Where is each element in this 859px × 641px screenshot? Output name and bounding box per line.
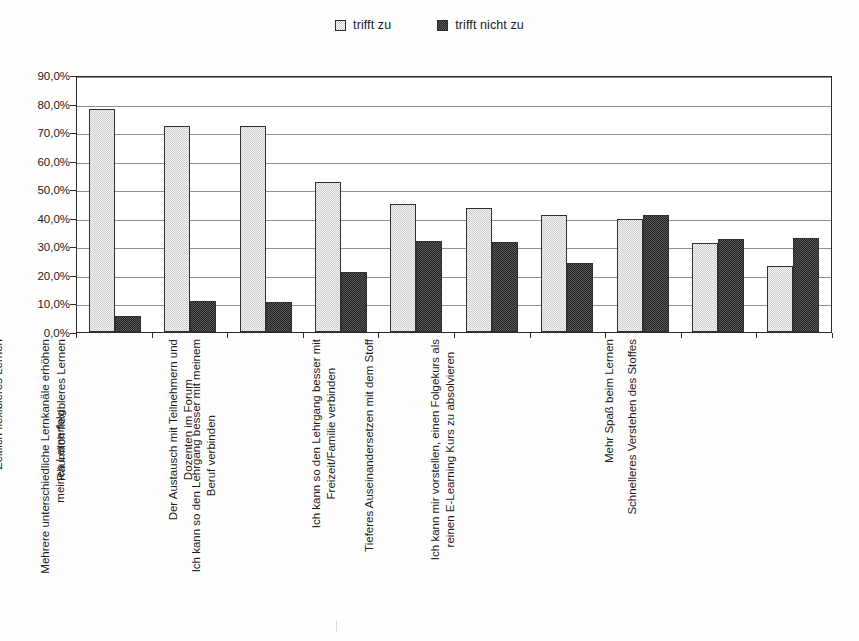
x-axis-category-label: Ich kann mir vorstellen, einen Folgekurs… xyxy=(429,339,459,560)
bar-groups xyxy=(77,77,831,332)
bar-trifft-zu xyxy=(89,109,115,332)
bar-group xyxy=(454,77,529,332)
bar-group xyxy=(228,77,303,332)
legend-swatch-dark-icon xyxy=(437,20,448,31)
x-axis-category-label: Tieferes Auseinandersetzen mit dem Stoff xyxy=(361,339,376,552)
x-label-line: reinen E-Learning Kurs zu absolvieren xyxy=(444,352,459,548)
y-tick-label: 30,0% xyxy=(12,241,70,253)
x-label-cell: Mehr Spaß beim Lernen xyxy=(681,339,757,639)
x-label-line: Ich kann so den Lehrgang besser mit xyxy=(310,339,325,528)
x-tick-mark xyxy=(605,333,606,338)
y-tick-label: 20,0% xyxy=(12,270,70,282)
bar-group xyxy=(152,77,227,332)
legend-label-trifft-nicht-zu: trifft nicht zu xyxy=(455,18,524,32)
x-axis-category-label: Schnelleres Verstehen des Stoffes xyxy=(626,339,641,515)
x-label-line: meinen Lernerfolg xyxy=(52,410,67,503)
x-label-cell: Tieferes Auseinandersetzen mit dem Stoff xyxy=(530,339,606,639)
bar-trifft-zu xyxy=(164,126,190,332)
x-tick-mark xyxy=(756,333,757,338)
bar-group xyxy=(77,77,152,332)
x-axis-category-label: Mehr Spaß beim Lernen xyxy=(602,339,617,463)
bar-trifft-zu xyxy=(466,208,492,332)
y-tick-label: 10,0% xyxy=(12,298,70,310)
x-axis-category-label: Ich kann so den Lehrgang besser mitFreiz… xyxy=(310,339,340,528)
x-tick-mark xyxy=(832,333,833,338)
x-tick-mark xyxy=(76,333,77,338)
y-tick-label: 80,0% xyxy=(12,99,70,111)
scan-artifact xyxy=(336,621,337,632)
bar-trifft-nicht-zu xyxy=(190,301,216,332)
bar-group xyxy=(756,77,831,332)
x-label-line: Zeitlich flexibleres Lernen xyxy=(0,339,5,469)
bar-trifft-zu xyxy=(541,215,567,332)
x-label-cell: Ich kann so den Lehrgang besser mitFreiz… xyxy=(454,339,530,639)
x-axis-category-label: Ich kann so den Lehrgang besser mit mein… xyxy=(190,339,220,572)
x-tick-mark xyxy=(152,333,153,338)
legend-swatch-light-icon xyxy=(335,20,346,31)
bar-trifft-nicht-zu xyxy=(492,242,518,332)
bar-trifft-nicht-zu xyxy=(567,263,593,332)
x-label-line: Mehr Spaß beim Lernen xyxy=(602,339,617,463)
bar-trifft-nicht-zu xyxy=(643,215,669,332)
x-tick-mark xyxy=(378,333,379,338)
x-label-cell: Mehrere unterschiedliche Lernkanäle erhö… xyxy=(227,339,303,639)
bar-group xyxy=(605,77,680,332)
x-label-line: Schnelleres Verstehen des Stoffes xyxy=(626,339,641,515)
bar-trifft-nicht-zu xyxy=(115,316,141,332)
bar-chart: trifft zu trifft nicht zu 0,0%10,0%20,0%… xyxy=(0,0,859,641)
y-tick-label: 90,0% xyxy=(12,70,70,82)
x-axis-category-label: Zeitlich flexibleres Lernen xyxy=(0,339,5,469)
bar-trifft-nicht-zu xyxy=(718,239,744,332)
bar-trifft-zu xyxy=(617,219,643,332)
bar-group xyxy=(529,77,604,332)
bar-trifft-zu xyxy=(240,126,266,332)
x-axis-category-label: Mehrere unterschiedliche Lernkanäle erhö… xyxy=(37,339,67,574)
bar-trifft-nicht-zu xyxy=(341,272,367,332)
y-tick-label: 40,0% xyxy=(12,213,70,225)
y-tick-label: 0,0% xyxy=(12,327,70,339)
plot-area xyxy=(76,76,832,333)
x-label-cell: Schnelleres Verstehen des Stoffes xyxy=(756,339,832,639)
x-label-line: Der Austausch mit Teilnehmern und xyxy=(166,339,181,520)
bar-trifft-zu xyxy=(315,182,341,332)
x-axis-labels: Zeitlich flexibleres LernenRäumlich flex… xyxy=(76,339,832,639)
x-label-line: Ich kann mir vorstellen, einen Folgekurs… xyxy=(429,339,444,560)
x-tick-mark xyxy=(227,333,228,338)
y-tick-label: 60,0% xyxy=(12,156,70,168)
x-label-line: Tieferes Auseinandersetzen mit dem Stoff xyxy=(361,339,376,552)
legend-label-trifft-zu: trifft zu xyxy=(353,18,391,32)
bar-trifft-zu xyxy=(692,243,718,332)
legend-entry-trifft-zu: trifft zu xyxy=(335,18,391,32)
bar-trifft-zu xyxy=(390,204,416,333)
bar-group xyxy=(680,77,755,332)
bar-trifft-zu xyxy=(767,266,793,332)
y-tick-label: 70,0% xyxy=(12,127,70,139)
x-label-line: Beruf verbinden xyxy=(205,415,220,496)
x-tick-mark xyxy=(303,333,304,338)
bar-group xyxy=(379,77,454,332)
legend-entry-trifft-nicht-zu: trifft nicht zu xyxy=(437,18,524,32)
chart-legend: trifft zu trifft nicht zu xyxy=(0,18,859,32)
bar-group xyxy=(303,77,378,332)
x-tick-mark xyxy=(530,333,531,338)
x-tick-mark xyxy=(454,333,455,338)
bar-trifft-nicht-zu xyxy=(793,238,819,332)
x-tick-mark xyxy=(681,333,682,338)
y-tick-label: 50,0% xyxy=(12,184,70,196)
bar-trifft-nicht-zu xyxy=(416,241,442,332)
bar-trifft-nicht-zu xyxy=(266,302,292,332)
x-label-cell: Zeitlich flexibleres Lernen xyxy=(76,339,152,639)
x-label-line: Freizeit/Familie verbinden xyxy=(325,368,340,500)
x-label-line: Mehrere unterschiedliche Lernkanäle erhö… xyxy=(37,339,52,574)
x-label-line: Ich kann so den Lehrgang besser mit mein… xyxy=(190,339,205,572)
